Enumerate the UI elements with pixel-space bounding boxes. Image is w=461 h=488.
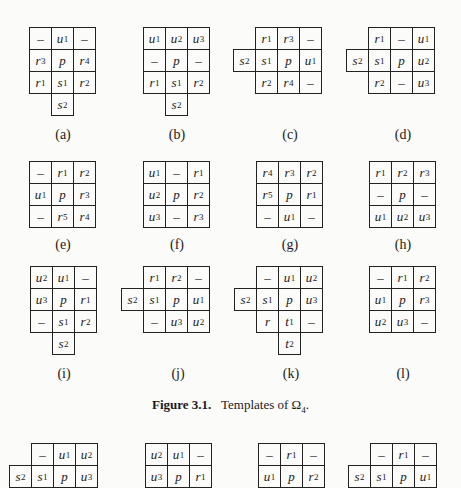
template-cell: r3 <box>413 161 436 184</box>
template-cell: r1 <box>187 161 210 184</box>
template-cell: r1 <box>143 71 166 94</box>
template-cell: u2 <box>30 266 53 289</box>
template-cell: u1 <box>258 465 281 488</box>
template-caption-i: (i) <box>29 366 99 382</box>
template-cell: s2 <box>165 93 188 116</box>
template-cell: u2 <box>145 443 168 466</box>
template-cell: r1 <box>280 443 303 466</box>
template-cell: – <box>30 310 53 333</box>
template-cell: s2 <box>52 332 75 355</box>
template-cell: p <box>391 183 414 206</box>
template-caption-c: (c) <box>255 127 325 143</box>
template-cell: r1 <box>369 161 392 184</box>
template-cell: u3 <box>187 27 210 50</box>
template-cell: s2 <box>233 49 256 72</box>
template-caption-d: (d) <box>368 127 438 143</box>
template-cell: r1 <box>189 465 212 488</box>
template-cell: u1 <box>414 465 437 488</box>
template-cell: u1 <box>143 161 166 184</box>
template-cell: – <box>74 266 97 289</box>
template-cell: r2 <box>413 266 436 289</box>
template-cell: – <box>143 49 166 72</box>
template-cell: u2 <box>187 310 210 333</box>
template-cell: p <box>52 288 75 311</box>
template-cell: r3 <box>29 49 52 72</box>
template-cell: u3 <box>143 205 166 228</box>
template-cell: r2 <box>74 310 97 333</box>
template-cell: – <box>300 310 323 333</box>
template-cell: – <box>189 443 212 466</box>
template-caption-e: (e) <box>28 237 98 253</box>
template-cell: s2 <box>51 93 74 116</box>
template-cell: r4 <box>256 161 279 184</box>
template-cell: – <box>302 443 325 466</box>
template-cell: u3 <box>75 465 98 488</box>
template-cell: u2 <box>300 266 323 289</box>
template-caption-j: (j) <box>143 366 213 382</box>
template-cell: r1 <box>368 27 391 50</box>
template-cell: r1 <box>74 288 97 311</box>
template-cell: u3 <box>413 205 436 228</box>
template-cell: u1 <box>278 205 301 228</box>
template-caption-g: (g) <box>255 237 325 253</box>
template-cell: s1 <box>256 288 279 311</box>
template-cell: r3 <box>73 183 96 206</box>
template-caption-h: (h) <box>368 237 438 253</box>
template-cell: s1 <box>368 49 391 72</box>
template-cell: r4 <box>73 205 96 228</box>
template-cell: r4 <box>73 49 96 72</box>
template-cell: t2 <box>278 332 301 355</box>
template-cell: r2 <box>255 71 278 94</box>
template-cell: r4 <box>277 71 300 94</box>
template-cell: s1 <box>165 71 188 94</box>
template-cell: u2 <box>369 310 392 333</box>
template-cell: – <box>413 310 436 333</box>
figure-text: Templates of Ω <box>221 397 301 412</box>
template-cell: p <box>280 465 303 488</box>
template-cell: s2 <box>234 288 257 311</box>
template-cell: p <box>278 288 301 311</box>
template-cell: – <box>143 310 166 333</box>
template-cell: r1 <box>391 266 414 289</box>
template-cell: p <box>53 465 76 488</box>
template-caption-f: (f) <box>142 237 212 253</box>
template-cell: p <box>390 49 413 72</box>
template-cell: u1 <box>369 288 392 311</box>
template-cell: p <box>167 465 190 488</box>
template-cell: – <box>165 161 188 184</box>
template-cell: – <box>300 205 323 228</box>
template-cell: – <box>29 205 52 228</box>
template-cell: s2 <box>121 288 144 311</box>
template-cell: s1 <box>370 465 393 488</box>
template-cell: u2 <box>143 183 166 206</box>
template-cell: – <box>390 71 413 94</box>
figure-caption: Figure 3.1. Templates of Ω4. <box>0 397 461 415</box>
template-cell: r3 <box>413 288 436 311</box>
template-cell: r2 <box>391 161 414 184</box>
template-cell: u1 <box>53 443 76 466</box>
template-cell: r2 <box>73 161 96 184</box>
template-cell: r5 <box>51 205 74 228</box>
template-cell: u1 <box>143 27 166 50</box>
template-cell: s2 <box>9 465 32 488</box>
template-cell: s1 <box>143 288 166 311</box>
template-cell: r1 <box>29 71 52 94</box>
template-cell: p <box>392 465 415 488</box>
template-cell: u1 <box>167 443 190 466</box>
template-cell: s1 <box>51 71 74 94</box>
template-cell: – <box>29 161 52 184</box>
template-cell: – <box>29 27 52 50</box>
template-cell: u2 <box>391 205 414 228</box>
template-caption-l: (l) <box>368 366 438 382</box>
template-cell: – <box>256 205 279 228</box>
template-cell: u3 <box>391 310 414 333</box>
template-cell: – <box>413 183 436 206</box>
template-caption-b: (b) <box>142 127 212 143</box>
template-cell: r1 <box>143 266 166 289</box>
template-cell: – <box>414 443 437 466</box>
template-cell: p <box>51 183 74 206</box>
template-caption-a: (a) <box>28 127 98 143</box>
template-cell: r3 <box>187 205 210 228</box>
template-cell: p <box>165 288 188 311</box>
template-cell: r2 <box>165 266 188 289</box>
